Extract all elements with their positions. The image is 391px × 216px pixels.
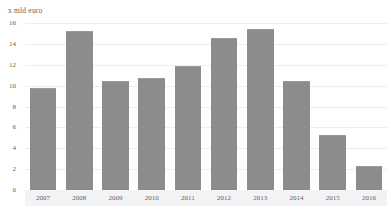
bar-2011 xyxy=(175,66,202,190)
bar-2014 xyxy=(283,81,310,190)
y-axis-tick-label: 2 xyxy=(0,166,16,173)
x-axis-tick-label: 2016 xyxy=(351,194,387,202)
bar-2008 xyxy=(66,31,93,190)
bar-2012 xyxy=(211,38,238,190)
bar-2016 xyxy=(356,166,383,190)
y-axis-tick-label: 14 xyxy=(0,40,16,47)
y-axis-tick-label: 4 xyxy=(0,145,16,152)
y-axis-tick-label: 16 xyxy=(0,20,16,27)
x-axis-label-band: 2007200820092010201120122013201420152016 xyxy=(25,190,387,206)
y-axis-tick-label: 8 xyxy=(0,103,16,110)
bar-chart: x mld euro 0246810121416 200720082009201… xyxy=(0,0,391,216)
x-axis-tick-label: 2007 xyxy=(25,194,61,202)
y-axis-tick-label: 12 xyxy=(0,61,16,68)
y-axis-unit-label: x mld euro xyxy=(8,6,43,15)
y-axis-tick-label: 6 xyxy=(0,124,16,131)
bar-2015 xyxy=(319,135,346,190)
x-axis-tick-label: 2011 xyxy=(170,194,206,202)
x-axis-tick-label: 2015 xyxy=(315,194,351,202)
bar-2010 xyxy=(138,78,165,190)
x-axis-tick-label: 2010 xyxy=(134,194,170,202)
plot-area: 0246810121416 xyxy=(25,23,387,190)
x-axis-tick-label: 2012 xyxy=(206,194,242,202)
y-axis-tick-label: 10 xyxy=(0,82,16,89)
x-axis-tick-label: 2013 xyxy=(242,194,278,202)
bar-2009 xyxy=(102,81,129,190)
x-axis-tick-label: 2009 xyxy=(97,194,133,202)
bar-2013 xyxy=(247,29,274,190)
x-axis-tick-label: 2014 xyxy=(278,194,314,202)
x-axis-tick-label: 2008 xyxy=(61,194,97,202)
bar-2007 xyxy=(30,88,57,190)
y-axis-tick-label: 0 xyxy=(0,187,16,194)
bars-group xyxy=(25,23,387,190)
